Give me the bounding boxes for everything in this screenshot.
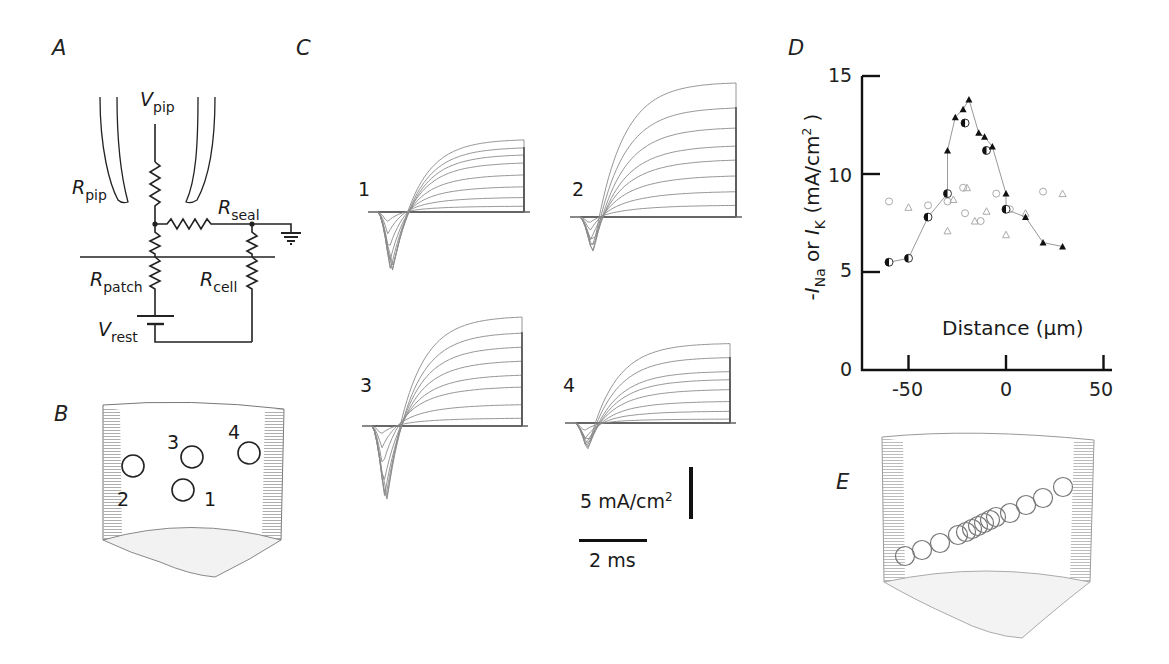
cell-drawing-e — [0, 0, 1169, 664]
